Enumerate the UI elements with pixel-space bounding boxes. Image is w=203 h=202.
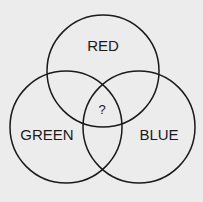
center-question-mark: ? [98,102,105,117]
label-blue: BLUE [139,126,178,143]
label-green: GREEN [20,126,73,143]
venn-diagram: RED GREEN BLUE ? [0,0,203,202]
label-red: RED [87,37,119,54]
